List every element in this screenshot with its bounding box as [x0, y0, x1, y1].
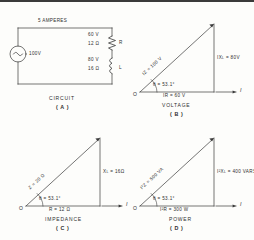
panel-b-caption: VOLTAGE	[162, 103, 190, 108]
panel-d-origin-label: O	[133, 206, 137, 211]
resistor-symbol	[109, 36, 116, 50]
d-i-arrowhead	[233, 204, 236, 207]
resistor-value-label: 12 Ω	[88, 42, 99, 47]
panel-d-vertical-main: I²X	[217, 169, 224, 174]
c-i-arrowhead	[119, 204, 122, 207]
panel-c-vertical-label: XL = 16Ω	[103, 170, 125, 175]
figure-page: 5 AMPERES 100V 60 V 12 Ω R 80 V 16 Ω L C…	[0, 0, 254, 240]
resistor-name-label: R	[119, 41, 123, 46]
panel-b-vertical-label: IXL = 80V	[217, 56, 240, 61]
panel-c-fignum: ( C )	[56, 226, 69, 231]
c-hyp-arrowhead	[95, 138, 100, 142]
b-i-arrowhead	[233, 90, 236, 93]
panel-b-axis-label: I	[240, 88, 242, 93]
panel-d-angle-label: θ = 53.1°	[153, 197, 175, 202]
panel-d-vertical-value: = 400 VARS.	[226, 169, 254, 174]
panel-c-base-label: R = 12 Ω	[49, 208, 70, 213]
panel-d-axis-label: I	[240, 202, 242, 207]
panel-c-origin-label: O	[19, 206, 23, 211]
circuit-current-label: 5 AMPERES	[38, 19, 67, 24]
panel-b-vertical-value: = 80V	[224, 55, 240, 60]
resistor-voltage-label: 60 V	[88, 33, 99, 38]
inductor-symbol	[110, 58, 113, 74]
ac-sine-glyph	[14, 52, 23, 55]
panel-b-fignum: ( B )	[170, 112, 183, 117]
panel-b-base-label: IR = 60 V	[163, 94, 185, 99]
panel-a-circuit-schematic	[10, 28, 116, 84]
b-hypotenuse	[140, 25, 213, 92]
panel-c-vertical-value: = 16Ω	[109, 169, 125, 174]
panel-d-vertical-label: I²XL = 400 VARS.	[217, 170, 254, 175]
circuit-source-label: 100V	[29, 52, 41, 57]
panel-c-angle-label: θ = 53.1°	[39, 197, 61, 202]
inductor-voltage-label: 80 V	[88, 58, 99, 63]
panel-c-caption: IMPEDANCE	[45, 217, 82, 222]
panel-a-caption: CIRCUIT	[49, 96, 75, 101]
panel-b-origin-label: O	[133, 92, 137, 97]
panel-d-caption: POWER	[169, 217, 192, 222]
d-hyp-arrowhead	[209, 138, 214, 142]
panel-c-axis-label: I	[126, 202, 128, 207]
panel-b-angle-label: θ = 53.1°	[153, 83, 175, 88]
inductor-name-label: L	[119, 66, 122, 71]
c-hypotenuse	[26, 139, 99, 206]
inductor-value-label: 16 Ω	[88, 67, 99, 72]
b-hyp-arrowhead	[209, 24, 214, 28]
d-hypotenuse	[140, 139, 213, 206]
panel-a-fignum: ( A )	[56, 105, 69, 110]
panel-d-fignum: ( D )	[170, 226, 183, 231]
panel-d-base-label: I²R = 300 W	[160, 208, 189, 213]
